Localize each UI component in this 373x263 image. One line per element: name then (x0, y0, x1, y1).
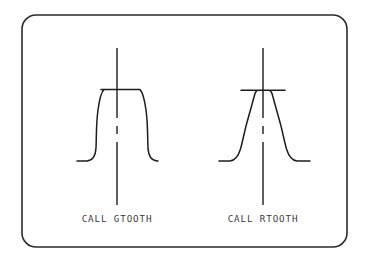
diagram-canvas: CALL GTOOTH CALL RTOOTH (0, 0, 373, 263)
rtooth-caption: CALL RTOOTH (228, 213, 299, 224)
figure-rtooth: CALL RTOOTH (219, 48, 310, 224)
figure-gtooth: CALL GTOOTH (77, 48, 158, 224)
gtooth-caption: CALL GTOOTH (82, 213, 153, 224)
tooth-profile-diagram: CALL GTOOTH CALL RTOOTH (0, 0, 373, 263)
rtooth-profile-outline (219, 90, 310, 161)
